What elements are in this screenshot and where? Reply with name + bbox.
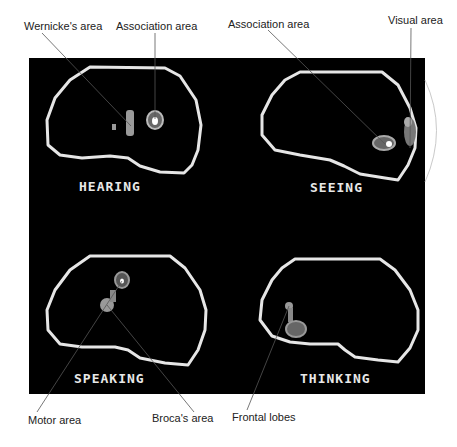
label-thinking: THINKING: [300, 371, 371, 386]
activity-seeing: [373, 117, 416, 150]
brain-outline-speaking: [47, 256, 206, 365]
brain-outline-hearing: [47, 67, 201, 173]
callout-association-area-2: Association area: [228, 18, 309, 30]
callout-frontal-lobes: Frontal lobes: [232, 411, 296, 423]
leader-frontal: [247, 306, 289, 410]
leader-brocas: [107, 305, 194, 412]
brain-outline-thinking: [260, 259, 418, 362]
brain-scan-graphics: [0, 0, 457, 447]
callout-visual-area: Visual area: [388, 14, 443, 26]
label-seeing: SEEING: [310, 180, 363, 195]
callout-brocas-area: Broca's area: [152, 412, 213, 424]
leader-wernickes: [42, 33, 131, 126]
label-hearing: HEARING: [79, 179, 141, 194]
brain-edge-arc: [425, 80, 437, 182]
label-speaking: SPEAKING: [74, 371, 145, 386]
callout-motor-area: Motor area: [28, 414, 81, 426]
leader-association-2: [268, 30, 385, 144]
callout-association-area-1: Association area: [116, 20, 197, 32]
callout-wernickes-area: Wernicke's area: [24, 20, 102, 32]
brain-outline-seeing: [262, 72, 416, 180]
